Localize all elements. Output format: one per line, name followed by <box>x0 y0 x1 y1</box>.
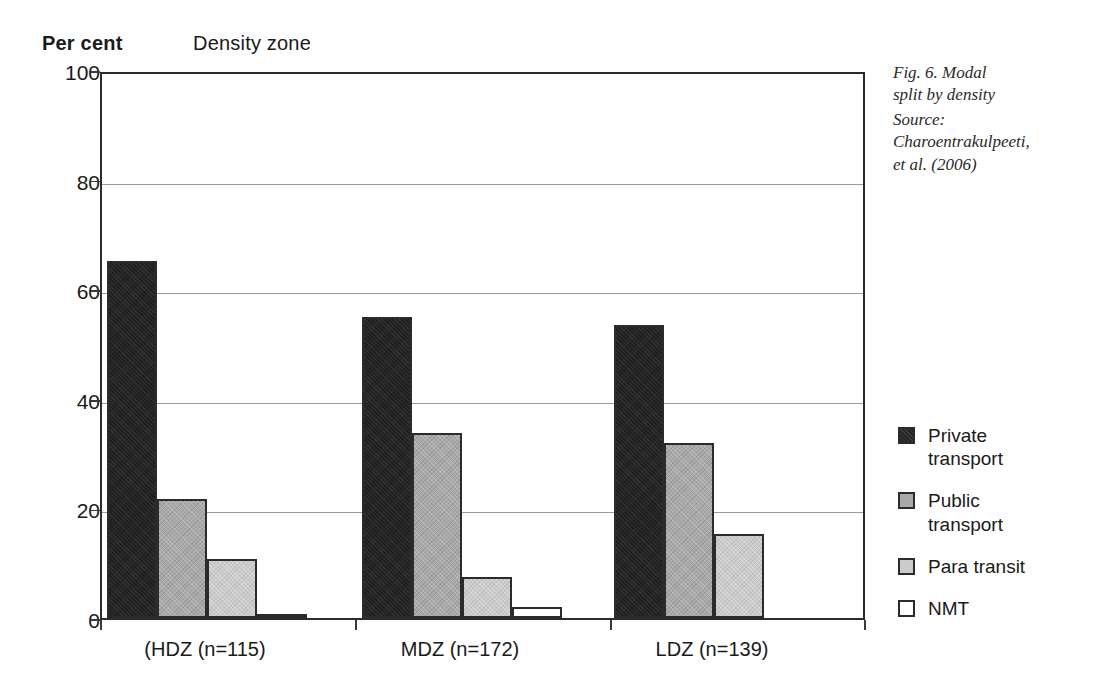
figure-caption: Fig. 6. Modal split by density Source: C… <box>893 62 1093 176</box>
legend-swatch-icon <box>898 492 915 509</box>
legend-item-nmt[interactable]: NMT <box>898 597 1088 620</box>
x-tick-mark <box>100 620 102 630</box>
y-tick-mark <box>91 619 100 621</box>
legend-label: Para transit <box>928 555 1025 578</box>
legend-label: NMT <box>928 597 969 620</box>
caption-title: Fig. 6. Modal split by density <box>893 62 1093 107</box>
legend-item-private-transport[interactable]: Private transport <box>898 424 1088 470</box>
bar-public-transport[interactable] <box>412 433 462 618</box>
x-tick-mark <box>355 620 357 630</box>
x-tick-label: LDZ (n=139) <box>612 638 812 661</box>
y-tick-mark <box>91 181 100 183</box>
legend-label: Private transport <box>928 424 1003 470</box>
y-axis-title: Per cent <box>42 32 123 55</box>
caption-source-label: Source: <box>893 109 1093 131</box>
figure-modal-split-by-density: Per cent Density zone 020406080100 Priva… <box>0 0 1099 694</box>
y-tick-mark <box>91 71 100 73</box>
bar-group <box>107 74 307 618</box>
bar-group <box>362 74 562 618</box>
legend-swatch-icon <box>898 427 915 444</box>
bar-nmt[interactable] <box>257 614 307 618</box>
y-tick-mark <box>91 290 100 292</box>
legend-swatch-icon <box>898 558 915 575</box>
legend-swatch-icon <box>898 600 915 617</box>
bar-group <box>614 74 814 618</box>
x-tick-mark <box>610 620 612 630</box>
x-axis-title: Density zone <box>193 32 311 55</box>
y-axis: 020406080100 <box>30 72 100 620</box>
legend-label: Public transport <box>928 489 1003 535</box>
legend-item-para-transit[interactable]: Para transit <box>898 555 1088 578</box>
plot-area <box>100 72 865 620</box>
x-tick-label: (HDZ (n=115) <box>105 638 305 661</box>
bar-public-transport[interactable] <box>157 499 207 618</box>
chart-legend: Private transportPublic transportPara tr… <box>898 424 1088 639</box>
bar-private-transport[interactable] <box>614 325 664 618</box>
caption-source-value: Charoentrakulpeeti, et al. (2006) <box>893 131 1093 176</box>
bar-para-transit[interactable] <box>714 534 764 618</box>
bar-para-transit[interactable] <box>207 559 257 618</box>
bar-nmt[interactable] <box>512 607 562 618</box>
bar-para-transit[interactable] <box>462 577 512 618</box>
y-tick-mark <box>91 510 100 512</box>
bar-private-transport[interactable] <box>107 261 157 618</box>
x-tick-label: MDZ (n=172) <box>360 638 560 661</box>
y-tick-mark <box>91 400 100 402</box>
legend-item-public-transport[interactable]: Public transport <box>898 489 1088 535</box>
bar-public-transport[interactable] <box>664 443 714 618</box>
x-tick-mark <box>864 620 866 630</box>
bar-private-transport[interactable] <box>362 317 412 618</box>
